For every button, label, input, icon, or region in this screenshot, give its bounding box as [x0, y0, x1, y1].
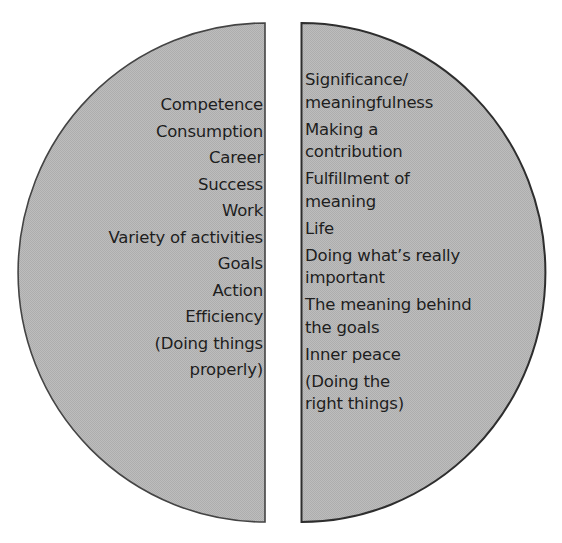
left-item-efficiency: Efficiency [109, 304, 263, 331]
right-item-doing-the-right-things: (Doing the right things) [305, 371, 471, 416]
split-circle-diagram: Competence Consumption Career Success Wo… [0, 0, 562, 543]
left-item-competence: Competence [109, 92, 263, 119]
right-item-fulfillment-of-meaning: Fulfillment of meaning [305, 168, 471, 213]
right-item-meaning-behind-goals: The meaning behind the goals [305, 294, 471, 339]
diagram-shapes [0, 0, 562, 543]
right-item-inner-peace: Inner peace [305, 344, 471, 367]
left-item-variety-of-activities: Variety of activities [109, 225, 263, 252]
left-item-goals: Goals [109, 251, 263, 278]
left-item-action: Action [109, 278, 263, 305]
right-item-significance: Significance/ meaningfulness [305, 69, 471, 114]
left-item-career: Career [109, 145, 263, 172]
right-half-list: Significance/ meaningfulness Making a co… [305, 69, 471, 420]
left-item-consumption: Consumption [109, 119, 263, 146]
left-half-list: Competence Consumption Career Success Wo… [109, 92, 263, 384]
right-item-life: Life [305, 218, 471, 241]
right-item-doing-whats-really-important: Doing what’s really important [305, 245, 471, 290]
left-item-work: Work [109, 198, 263, 225]
left-item-doing-things-properly: (Doing things properly) [109, 331, 263, 384]
left-item-success: Success [109, 172, 263, 199]
right-item-making-a-contribution: Making a contribution [305, 119, 471, 164]
